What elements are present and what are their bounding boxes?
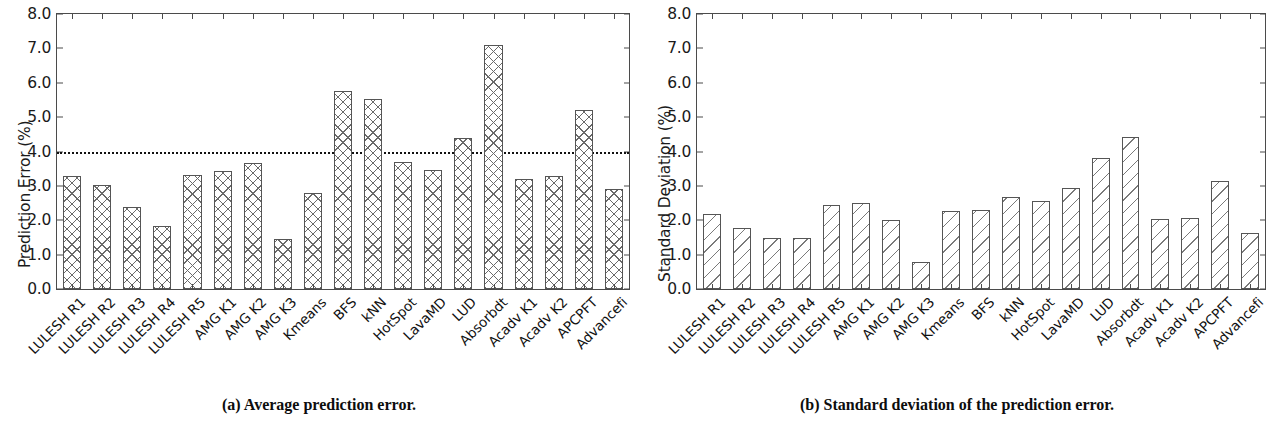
- chart-panel-b: Standard Deviation (%) 0.01.02.03.04.05.…: [638, 0, 1276, 427]
- x-tick-mark: [1101, 284, 1102, 289]
- x-tick-mark: [861, 284, 862, 289]
- x-tick-mark: [162, 284, 163, 289]
- x-tick-mark: [554, 284, 555, 289]
- y-tick-mark: [57, 82, 63, 83]
- x-tick-mark-top: [981, 14, 982, 19]
- y-tick-label: 3.0: [667, 177, 697, 195]
- x-tick-mark: [921, 284, 922, 289]
- bar: [63, 176, 81, 289]
- x-tick-mark-top: [343, 14, 344, 19]
- y-tick-mark: [57, 117, 63, 118]
- y-tick-label: 2.0: [27, 211, 57, 229]
- x-tick-mark-top: [132, 14, 133, 19]
- bar: [1122, 137, 1140, 289]
- x-tick-mark-top: [1011, 14, 1012, 19]
- y-tick-mark-right: [624, 220, 629, 221]
- x-tick-mark: [373, 284, 374, 289]
- bar: [123, 207, 141, 290]
- x-tick-mark: [832, 284, 833, 289]
- x-tick-mark-top: [494, 14, 495, 19]
- x-tick-mark-top: [313, 14, 314, 19]
- y-tick-label: 7.0: [667, 39, 697, 57]
- x-tick-mark: [1220, 284, 1221, 289]
- x-tick-mark-top: [192, 14, 193, 19]
- x-tick-mark: [403, 284, 404, 289]
- plot-area-a: 0.01.02.03.04.05.06.07.08.0LULESH R1LULE…: [56, 13, 630, 290]
- x-tick-mark-top: [463, 14, 464, 19]
- x-tick-mark: [524, 284, 525, 289]
- bar: [334, 91, 352, 289]
- x-tick-mark-top: [1160, 14, 1161, 19]
- x-tick-mark: [1190, 284, 1191, 289]
- bar: [793, 238, 811, 289]
- x-tick-mark-top: [433, 14, 434, 19]
- x-tick-mark-top: [1220, 14, 1221, 19]
- bar: [304, 193, 322, 289]
- x-tick-mark-top: [554, 14, 555, 19]
- bar: [942, 211, 960, 289]
- x-tick-mark: [584, 284, 585, 289]
- x-tick-mark-top: [1071, 14, 1072, 19]
- bar: [1151, 219, 1169, 289]
- y-tick-mark: [697, 151, 703, 152]
- x-tick-mark-top: [614, 14, 615, 19]
- x-tick-mark-top: [951, 14, 952, 19]
- x-tick-mark: [614, 284, 615, 289]
- y-tick-label: 0.0: [27, 280, 57, 298]
- x-tick-mark-top: [832, 14, 833, 19]
- bar: [484, 45, 502, 289]
- y-tick-mark-right: [624, 117, 629, 118]
- bar: [703, 214, 721, 289]
- x-tick-mark-top: [373, 14, 374, 19]
- y-tick-mark-right: [624, 82, 629, 83]
- y-tick-mark: [57, 14, 63, 15]
- y-tick-label: 3.0: [27, 177, 57, 195]
- bar: [1181, 218, 1199, 290]
- x-tick-mark: [102, 284, 103, 289]
- y-tick-mark: [697, 14, 703, 15]
- x-tick-mark-top: [1130, 14, 1131, 19]
- y-tick-label: 4.0: [667, 143, 697, 161]
- x-tick-mark: [951, 284, 952, 289]
- bar: [575, 110, 593, 289]
- y-tick-label: 6.0: [27, 74, 57, 92]
- x-tick-mark: [772, 284, 773, 289]
- y-tick-mark: [57, 48, 63, 49]
- bar: [454, 138, 472, 289]
- bar: [545, 176, 563, 289]
- x-tick-mark: [223, 284, 224, 289]
- y-tick-mark-right: [624, 48, 629, 49]
- x-tick-mark: [742, 284, 743, 289]
- y-tick-label: 1.0: [667, 246, 697, 264]
- bar: [1241, 233, 1259, 289]
- y-tick-mark-right: [1260, 48, 1265, 49]
- x-tick-mark-top: [712, 14, 713, 19]
- x-tick-mark-top: [772, 14, 773, 19]
- bar: [733, 228, 751, 289]
- bar: [515, 179, 533, 289]
- x-tick-mark: [343, 284, 344, 289]
- bar: [1062, 188, 1080, 289]
- x-tick-mark: [802, 284, 803, 289]
- x-tick-mark: [494, 284, 495, 289]
- caption-a: (a) Average prediction error.: [0, 396, 638, 414]
- y-tick-mark-right: [1260, 254, 1265, 255]
- x-tick-mark-top: [162, 14, 163, 19]
- bar: [394, 162, 412, 289]
- y-tick-label: 8.0: [27, 5, 57, 23]
- y-tick-mark-right: [624, 289, 629, 290]
- y-tick-label: 1.0: [27, 246, 57, 264]
- bar: [364, 99, 382, 289]
- y-tick-mark-right: [1260, 151, 1265, 152]
- caption-b: (b) Standard deviation of the prediction…: [638, 396, 1276, 414]
- y-tick-mark: [697, 117, 703, 118]
- x-tick-mark: [1071, 284, 1072, 289]
- y-tick-mark: [697, 185, 703, 186]
- x-tick-mark-top: [1190, 14, 1191, 19]
- x-tick-mark: [891, 284, 892, 289]
- x-tick-mark-top: [1250, 14, 1251, 19]
- bar: [93, 185, 111, 289]
- y-tick-mark-right: [1260, 185, 1265, 186]
- x-tick-mark: [712, 284, 713, 289]
- y-tick-mark-right: [1260, 117, 1265, 118]
